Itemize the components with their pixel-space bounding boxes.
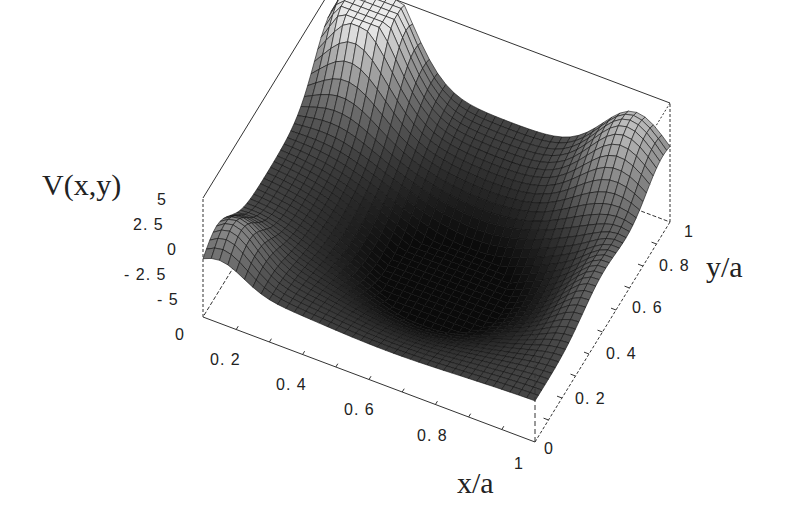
bounding-box-edge — [625, 286, 630, 288]
z-tick-label: - 2. 5 — [124, 266, 166, 284]
surface-plot: V(x,y) 5 2. 5 0 - 2. 5 - 5 0 0. 2 0. 4 0… — [0, 0, 793, 519]
bounding-box-edge — [402, 389, 404, 392]
bounding-box-edge — [544, 418, 549, 420]
bounding-box-edge — [571, 374, 576, 376]
bounding-box-edge — [502, 426, 504, 429]
x-tick-label: 0. 2 — [210, 351, 241, 369]
bounding-box-edge — [557, 396, 562, 398]
bounding-box-edge — [638, 264, 643, 266]
bounding-box-edge — [611, 308, 616, 310]
z-tick-label: 5 — [157, 191, 167, 209]
bounding-box-edge — [584, 352, 589, 354]
bounding-box-edge — [303, 351, 305, 354]
bounding-box-edge — [598, 330, 603, 332]
x-tick-label: 0. 4 — [276, 376, 307, 394]
y-tick-label: 0. 6 — [632, 299, 663, 317]
z-tick-label: - 5 — [157, 291, 179, 309]
bounding-box-edge — [435, 401, 437, 404]
bounding-box-edge — [336, 364, 338, 367]
x-tick-label: 1 — [514, 455, 524, 473]
z-tick-label: 2. 5 — [133, 216, 164, 234]
y-axis-title: y/a — [706, 250, 743, 284]
x-axis-title: x/a — [457, 466, 494, 500]
x-tick-label: 0. 8 — [417, 427, 448, 445]
y-tick-label: 1 — [684, 223, 694, 241]
bounding-box-edge — [652, 242, 657, 244]
bounding-box-edge — [469, 414, 471, 417]
z-axis-title: V(x,y) — [42, 168, 121, 202]
bounding-box-edge — [369, 376, 371, 379]
bounding-box-edge — [236, 326, 238, 329]
y-tick-label: 0. 2 — [575, 390, 606, 408]
y-tick-label: 0 — [544, 440, 554, 458]
z-tick-label: 0 — [167, 241, 177, 259]
bounding-box-edge — [269, 339, 271, 342]
y-tick-label: 0. 4 — [606, 345, 637, 363]
y-tick-label: 0. 8 — [659, 257, 690, 275]
surface-mesh — [203, 0, 670, 401]
x-tick-label: 0. 6 — [344, 401, 375, 419]
x-tick-label: 0 — [175, 326, 185, 344]
